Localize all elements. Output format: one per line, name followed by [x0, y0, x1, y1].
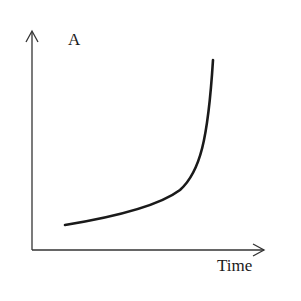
y-axis-label: A — [68, 30, 80, 50]
growth-curve — [65, 60, 213, 225]
chart-canvas — [0, 0, 301, 301]
x-axis-label: Time — [217, 256, 252, 276]
